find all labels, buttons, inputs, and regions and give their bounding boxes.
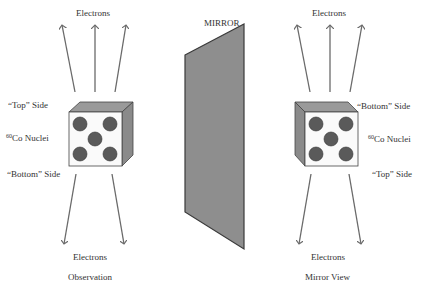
diagram-graphics — [0, 0, 424, 288]
mirror-view-bottom-side-label: “Bottom” Side — [357, 101, 410, 111]
mirror-view-caption: Mirror View — [305, 272, 350, 282]
observation-electrons-top-label: Electrons — [76, 8, 110, 18]
observation-nuclei-label: 60Co Nuclei — [6, 133, 49, 143]
mirror-view-electrons-top-label: Electrons — [312, 8, 346, 18]
observation-top-side-label: “Top” Side — [8, 100, 48, 110]
mirror-plane — [185, 24, 244, 249]
mirror-label: MIRROR — [204, 18, 240, 28]
mirror-view-top-side-label: “Top” Side — [372, 169, 412, 179]
observation-cube — [69, 102, 133, 166]
parity-mirror-diagram: MIRROR Electrons “Top” Side 60Co Nuclei … — [0, 0, 424, 288]
observation-caption: Observation — [68, 272, 112, 282]
mirror-view-nuclei-label: 60Co Nuclei — [368, 134, 411, 144]
observation-bottom-side-label: “Bottom” Side — [7, 169, 60, 179]
mirror-view-electrons-bottom-label: Electrons — [311, 252, 345, 262]
mirror-view-cube — [295, 102, 358, 166]
observation-electrons-bottom-label: Electrons — [73, 252, 107, 262]
